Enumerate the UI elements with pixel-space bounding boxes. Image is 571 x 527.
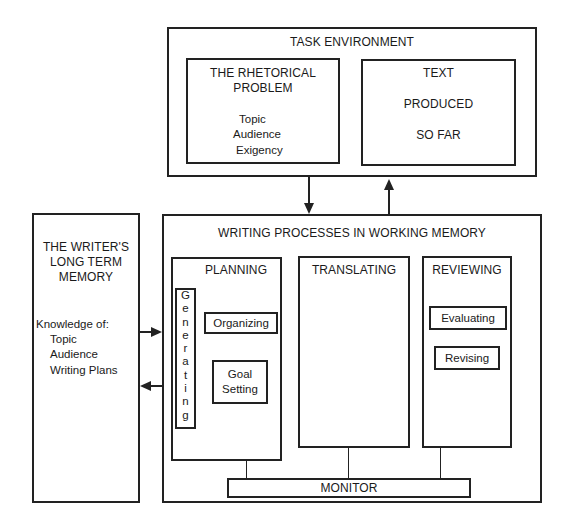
rhetorical-item-exigency: Exigency <box>236 143 283 157</box>
arrow-down-shaft <box>308 177 310 204</box>
arrow-left-icon <box>140 381 151 391</box>
task-environment-title: TASK ENVIRONMENT <box>167 35 537 49</box>
goal-setting-line1: Goal <box>212 367 268 381</box>
rhetorical-item-topic: Topic <box>239 112 266 126</box>
arrow-up-shaft <box>388 190 390 214</box>
planning-monitor-connector <box>246 460 247 479</box>
translating-monitor-connector <box>348 447 349 479</box>
planning-title: PLANNING <box>190 263 282 277</box>
ltm-item-topic: Topic <box>50 332 77 346</box>
generating-letter: g <box>182 409 188 422</box>
text-produced-line2: PRODUCED <box>361 97 516 111</box>
generating-letter: G <box>181 289 190 302</box>
generating-label: Generating <box>175 289 196 422</box>
generating-letter: i <box>184 382 187 395</box>
rhetorical-item-audience: Audience <box>233 127 281 141</box>
arrow-right-icon <box>151 327 162 337</box>
ltm-title-line3: MEMORY <box>32 270 140 284</box>
evaluating-label: Evaluating <box>429 311 507 325</box>
translating-box <box>298 256 410 448</box>
organizing-label: Organizing <box>204 316 278 330</box>
ltm-title-line1: THE WRITER'S <box>32 240 140 254</box>
working-memory-title: WRITING PROCESSES IN WORKING MEMORY <box>162 226 542 240</box>
generating-letter: n <box>182 395 188 408</box>
reviewing-title: REVIEWING <box>422 263 512 277</box>
generating-letter: e <box>182 329 188 342</box>
ltm-title-line2: LONG TERM <box>32 255 140 269</box>
ltm-item-writing-plans: Writing Plans <box>50 363 118 377</box>
generating-letter: t <box>184 369 187 382</box>
ltm-item-audience: Audience <box>50 347 98 361</box>
reviewing-monitor-connector <box>440 447 441 479</box>
generating-letter: e <box>182 302 188 315</box>
revising-label: Revising <box>434 351 500 365</box>
text-produced-line1: TEXT <box>361 66 516 80</box>
arrow-up-icon <box>384 179 394 190</box>
goal-setting-line2: Setting <box>212 382 268 396</box>
text-produced-line3: SO FAR <box>361 128 516 142</box>
translating-title: TRANSLATING <box>298 263 410 277</box>
monitor-label: MONITOR <box>227 481 471 495</box>
ltm-knowledge-label: Knowledge of: <box>36 317 109 331</box>
rhetorical-problem-title-line1: THE RHETORICAL <box>186 66 340 80</box>
generating-letter: r <box>184 342 188 355</box>
arrow-down-icon <box>304 203 314 214</box>
rhetorical-problem-title-line2: PROBLEM <box>186 81 340 95</box>
generating-letter: a <box>182 355 188 368</box>
generating-letter: n <box>182 316 188 329</box>
